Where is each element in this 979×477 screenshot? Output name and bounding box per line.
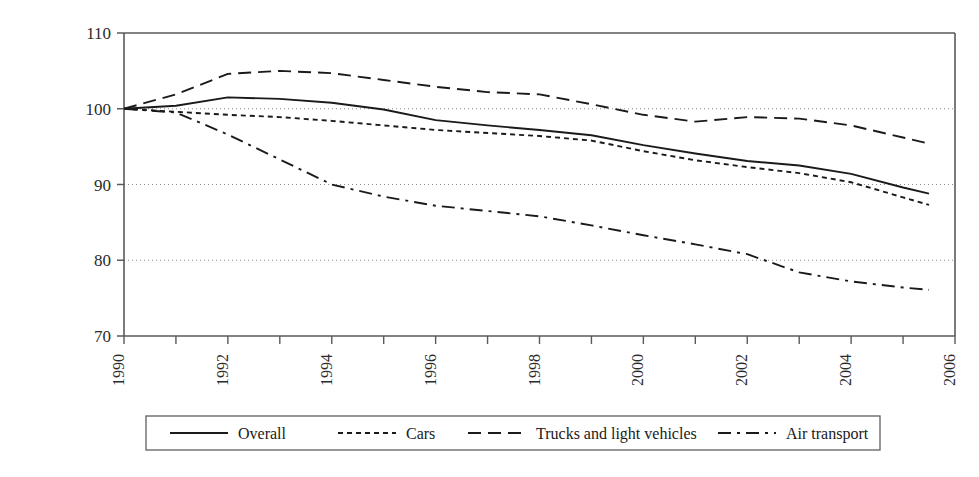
svg-text:110: 110 xyxy=(86,24,111,43)
svg-text:2004: 2004 xyxy=(837,354,854,386)
svg-text:2006: 2006 xyxy=(941,354,958,386)
chart-legend: OverallCarsTrucks and light vehiclesAir … xyxy=(146,416,880,450)
svg-text:70: 70 xyxy=(94,327,111,346)
line-chart-svg: 708090100110 199019921994199619982000200… xyxy=(0,0,979,477)
legend-label-overall: Overall xyxy=(238,425,287,442)
svg-text:1998: 1998 xyxy=(526,354,543,386)
svg-text:1990: 1990 xyxy=(110,354,127,386)
svg-text:2002: 2002 xyxy=(733,354,750,386)
legend-label-trucks-and-light-vehicles: Trucks and light vehicles xyxy=(536,425,697,443)
chart-figure: 708090100110 199019921994199619982000200… xyxy=(0,0,979,477)
svg-text:2000: 2000 xyxy=(629,354,646,386)
legend-label-air-transport: Air transport xyxy=(786,425,869,443)
svg-text:1996: 1996 xyxy=(422,354,439,386)
svg-text:90: 90 xyxy=(94,176,111,195)
svg-text:1992: 1992 xyxy=(214,354,231,386)
svg-text:100: 100 xyxy=(86,100,112,119)
legend-label-cars: Cars xyxy=(406,425,435,442)
svg-text:1994: 1994 xyxy=(318,354,335,386)
chart-background xyxy=(0,0,979,477)
svg-text:80: 80 xyxy=(94,251,111,270)
